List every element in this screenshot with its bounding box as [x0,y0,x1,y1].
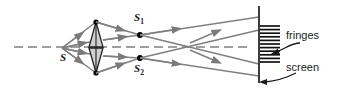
label-s1: S1 [134,12,144,26]
label-s2: S2 [134,63,144,77]
screen-callout-arrow [262,73,296,82]
interference-ray-arrowheads [140,29,218,64]
optics-diagram-svg [0,0,339,95]
label-screen: screen [286,62,319,73]
label-fringes: fringes [286,30,319,41]
fringe-pattern [260,26,280,62]
label-s2-sub: 2 [140,68,144,77]
diagram-canvas: S S1 S2 fringes screen [0,0,339,95]
biprism [89,19,103,75]
label-s1-sub: 1 [140,17,144,26]
label-source-s: S [60,52,66,63]
